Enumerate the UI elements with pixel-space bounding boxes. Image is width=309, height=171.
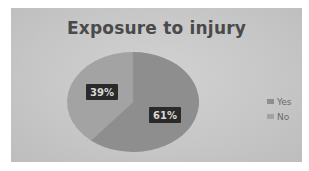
chart-area: Exposure to injury 39% 61% Yes No [11, 8, 302, 162]
legend-swatch-no [267, 114, 274, 119]
legend-label-yes: Yes [277, 97, 292, 107]
chart-legend: Yes No [267, 94, 292, 124]
legend-item-no: No [267, 109, 292, 124]
legend-item-yes: Yes [267, 94, 292, 109]
pie-chart: 39% 61% [11, 8, 302, 162]
legend-label-no: No [277, 112, 289, 122]
slice-label-no: 39% [90, 87, 114, 98]
legend-swatch-yes [267, 99, 274, 104]
slice-label-yes: 61% [153, 110, 177, 121]
